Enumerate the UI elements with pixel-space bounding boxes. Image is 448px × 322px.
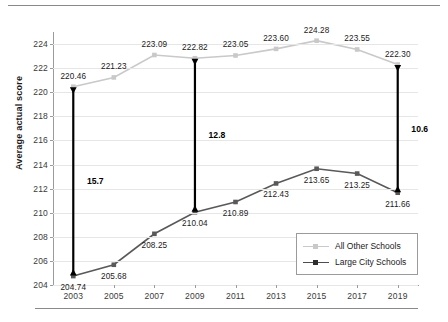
gap-arrow-head	[70, 269, 77, 276]
gap-value-label: 12.8	[209, 130, 226, 140]
gap-arrow-head	[192, 59, 199, 66]
x-axis-tick-mark	[195, 285, 196, 288]
legend-line-icon	[303, 257, 329, 267]
x-axis-tick-label: 2013	[266, 291, 286, 301]
gap-arrow-head	[394, 186, 401, 193]
y-axis-tick-label: 212	[22, 184, 48, 194]
x-axis-tick-label: 2019	[388, 291, 408, 301]
x-axis-tick-label: 2005	[104, 291, 124, 301]
x-axis-tick-label: 2003	[63, 291, 83, 301]
legend-item-large-city-schools[interactable]: Large City Schools	[303, 254, 411, 270]
legend-item-label: All Other Schools	[335, 241, 401, 251]
x-axis-tick-label: 2011	[226, 291, 245, 301]
bottom-divider-rule	[35, 308, 418, 309]
legend-line-icon	[303, 241, 329, 251]
x-axis-tick-label: 2017	[347, 291, 367, 301]
gap-value-label: 10.6	[411, 124, 428, 134]
x-axis-tick-mark	[236, 285, 237, 288]
x-axis-tick-mark	[357, 285, 358, 288]
y-axis-tick-label: 214	[22, 160, 48, 170]
y-axis-tick-labels: 204206208210212214216218220222224	[18, 32, 48, 285]
gap-arrow-head	[192, 205, 199, 212]
y-axis-tick-label: 216	[22, 135, 48, 145]
x-axis-tick-mark	[276, 285, 277, 288]
chart-figure: Average actual score 2042062082102122142…	[0, 0, 448, 322]
x-axis-tick-mark	[73, 285, 74, 288]
top-divider-rule	[8, 5, 440, 6]
x-axis-tick-labels: 200320052007200920112013201520172019	[53, 291, 418, 305]
y-axis-tick-label: 206	[22, 256, 48, 266]
y-axis-tick-label: 208	[22, 232, 48, 242]
y-axis-tick-label: 204	[22, 280, 48, 290]
gap-value-label: 15.7	[87, 176, 104, 186]
x-axis-tick-label: 2009	[185, 291, 205, 301]
y-axis-tick-label: 222	[22, 63, 48, 73]
gap-arrow-head	[394, 65, 401, 72]
legend-item-all-other-schools[interactable]: All Other Schools	[303, 238, 411, 254]
y-axis-tick-label: 218	[22, 111, 48, 121]
x-axis-tick-label: 2015	[307, 291, 327, 301]
legend-item-label: Large City Schools	[335, 257, 406, 267]
gap-arrow-head	[70, 87, 77, 94]
chart-legend: All Other Schools Large City Schools	[296, 233, 418, 275]
x-axis-tick-mark	[398, 285, 399, 288]
y-axis-tick-label: 210	[22, 208, 48, 218]
x-axis-tick-label: 2007	[145, 291, 165, 301]
y-axis-tick-label: 220	[22, 87, 48, 97]
x-axis-tick-mark	[154, 285, 155, 288]
x-axis-tick-mark	[114, 285, 115, 288]
x-axis-tick-mark	[317, 285, 318, 288]
y-axis-tick-label: 224	[22, 39, 48, 49]
